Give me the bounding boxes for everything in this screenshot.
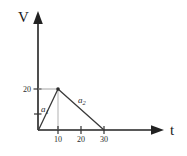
velocity-time-chart: V t 20 10 20 30 a1 a2 <box>0 0 187 156</box>
y-tick-label-20: 20 <box>23 85 31 94</box>
peak-data-point <box>56 87 60 91</box>
slope-label-a2: a2 <box>78 95 87 106</box>
slope-label-a1-subscript: 1 <box>46 108 49 115</box>
x-axis-label: t <box>170 122 175 138</box>
slope-label-a1: a1 <box>41 104 49 115</box>
x-tick-label-20: 20 <box>77 135 85 144</box>
x-axis-arrow-icon <box>151 125 164 135</box>
x-tick-label-10: 10 <box>54 135 62 144</box>
x-tick-label-30: 30 <box>100 135 108 144</box>
slope-label-a2-subscript: 2 <box>83 99 87 106</box>
y-axis-arrow-icon <box>33 11 43 24</box>
y-axis-label: V <box>18 9 29 25</box>
chart-canvas: V t 20 10 20 30 a1 a2 <box>0 0 187 156</box>
